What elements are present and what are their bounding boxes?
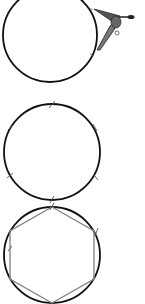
hexagon-construction-diagram <box>0 0 145 304</box>
step-1-circle-with-compass <box>3 0 135 82</box>
step-3-inscribed-hexagon <box>4 203 100 303</box>
compass-icon <box>94 9 135 50</box>
step-2-circle-with-marks <box>4 101 100 203</box>
